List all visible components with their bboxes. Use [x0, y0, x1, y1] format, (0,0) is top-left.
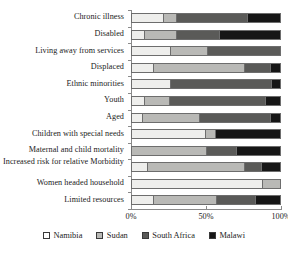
- y-axis-tick: [128, 60, 131, 61]
- y-axis-tick: [128, 76, 131, 77]
- bar-segment: [144, 97, 169, 105]
- bar-segment: [262, 180, 280, 188]
- legend-swatch-icon: [142, 232, 149, 239]
- bar-segment: [132, 147, 206, 155]
- category-label: Chronic illness: [0, 13, 124, 22]
- category-label: Ethnic minorities: [0, 80, 124, 89]
- bar-row: [131, 143, 281, 160]
- category-label: Youth: [0, 96, 124, 105]
- stacked-bar: [131, 63, 281, 73]
- bar-segment: [219, 31, 280, 39]
- bar-row: [131, 126, 281, 143]
- bar-segment: [270, 114, 280, 122]
- bar-segment: [153, 196, 217, 204]
- bar-segment: [132, 130, 205, 138]
- bar-segment: [170, 47, 207, 55]
- category-label: Children with special needs: [0, 130, 124, 139]
- bar-segment: [153, 64, 245, 72]
- bar-segment: [163, 14, 176, 22]
- x-axis-tick: [281, 206, 282, 210]
- y-axis-tick: [128, 10, 131, 11]
- bar-segment: [265, 97, 280, 105]
- chart-legend: NamibiaSudanSouth AfricaMalawi: [0, 231, 288, 240]
- legend-item[interactable]: Malawi: [209, 231, 245, 240]
- bar-segment: [132, 196, 153, 204]
- bar-segment: [132, 114, 142, 122]
- y-axis-tick: [128, 192, 131, 193]
- x-axis-tick-label: 0%: [111, 212, 151, 221]
- bar-segment: [132, 163, 147, 171]
- x-axis-tick-label: 100%: [261, 212, 288, 221]
- bar-row: [131, 60, 281, 77]
- bar-segment: [132, 31, 144, 39]
- legend-swatch-icon: [96, 232, 103, 239]
- legend-item[interactable]: South Africa: [142, 231, 195, 240]
- bar-segment: [236, 147, 280, 155]
- bar-row: [131, 176, 281, 193]
- stacked-bar: [131, 129, 281, 139]
- bar-segment: [132, 97, 144, 105]
- category-label: Displaced: [0, 63, 124, 72]
- bar-segment: [207, 47, 280, 55]
- bar-segment: [261, 163, 280, 171]
- bar-row: [131, 10, 281, 27]
- bar-row: [131, 43, 281, 60]
- bar-row: [131, 159, 281, 176]
- stacked-bar: [131, 113, 281, 123]
- bar-segment: [270, 64, 280, 72]
- x-axis-tick-label: 50%: [186, 212, 226, 221]
- bar-segment: [132, 14, 163, 22]
- category-label: Women headed household: [0, 179, 124, 188]
- stacked-bar-chart: Chronic illnessDisabledLiving away from …: [0, 0, 288, 254]
- stacked-bar: [131, 30, 281, 40]
- y-axis-tick: [128, 143, 131, 144]
- bar-segment: [205, 130, 215, 138]
- y-axis-tick: [128, 43, 131, 44]
- bar-segment: [206, 147, 236, 155]
- bar-row: [131, 93, 281, 110]
- legend-item[interactable]: Namibia: [43, 231, 82, 240]
- stacked-bar: [131, 195, 281, 205]
- legend-swatch-icon: [43, 232, 50, 239]
- y-axis-tick: [128, 110, 131, 111]
- category-label: Limited resources: [0, 196, 124, 205]
- stacked-bar: [131, 96, 281, 106]
- legend-item[interactable]: Sudan: [96, 231, 127, 240]
- plot-area: [131, 10, 281, 209]
- bar-segment: [199, 114, 270, 122]
- legend-label: South Africa: [152, 231, 195, 240]
- bar-segment: [142, 114, 198, 122]
- bar-segment: [132, 80, 170, 88]
- stacked-bar: [131, 162, 281, 172]
- category-label: Increased risk for relative Morbidity: [0, 158, 124, 167]
- category-axis-labels: Chronic illnessDisabledLiving away from …: [0, 10, 128, 209]
- legend-swatch-icon: [209, 232, 216, 239]
- bar-segment: [170, 80, 271, 88]
- stacked-bar: [131, 179, 281, 189]
- bar-segment: [144, 31, 177, 39]
- stacked-bar: [131, 46, 281, 56]
- bar-segment: [176, 14, 247, 22]
- legend-label: Sudan: [107, 231, 128, 240]
- x-axis-tick: [131, 206, 132, 210]
- category-label: Aged: [0, 113, 124, 122]
- bar-row: [131, 27, 281, 44]
- legend-label: Namibia: [54, 231, 83, 240]
- bar-row: [131, 110, 281, 127]
- category-label: Living away from services: [0, 47, 124, 56]
- bar-segment: [255, 196, 280, 204]
- bar-segment: [169, 97, 265, 105]
- bar-segment: [244, 163, 260, 171]
- y-axis-tick: [128, 126, 131, 127]
- x-axis-tick: [206, 206, 207, 210]
- category-label: Disabled: [0, 30, 124, 39]
- stacked-bar: [131, 13, 281, 23]
- bar-rows: [131, 10, 281, 209]
- bar-segment: [147, 163, 245, 171]
- category-label: Maternal and child mortality: [0, 146, 124, 155]
- y-axis-tick: [128, 93, 131, 94]
- bar-segment: [132, 47, 170, 55]
- bar-segment: [215, 130, 280, 138]
- bar-segment: [132, 180, 262, 188]
- bar-segment: [132, 64, 153, 72]
